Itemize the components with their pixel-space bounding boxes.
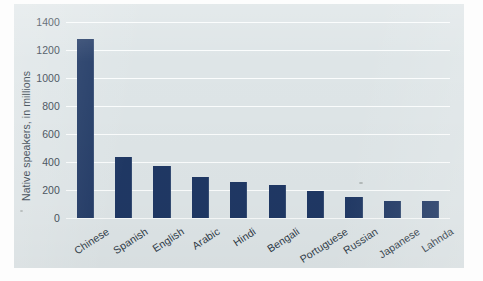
y-tick-label-400: 400 xyxy=(42,156,60,168)
bar-spanish[interactable] xyxy=(115,22,132,218)
bar-english[interactable] xyxy=(153,22,170,218)
x-tick-label-lahnda: Lahnda xyxy=(419,225,455,254)
y-axis-title: Native speakers, in millions xyxy=(20,71,32,201)
y-tick-label-0: 0 xyxy=(54,212,60,224)
x-tick-label-hindi: Hindi xyxy=(231,225,258,248)
x-tick-label-bengali: Bengali xyxy=(265,225,302,255)
bar-fill-english xyxy=(153,166,170,218)
y-tick-label-1200: 1200 xyxy=(36,44,60,56)
bar-chart-figure: Native speakers, in millions 02004006008… xyxy=(14,4,464,268)
bar-fill-bengali xyxy=(269,185,286,218)
bar-portuguese[interactable] xyxy=(307,22,324,218)
x-tick-label-japanese: Japanese xyxy=(377,225,422,260)
bar-fill-hindi xyxy=(230,182,247,218)
x-tick-label-english: English xyxy=(150,225,186,254)
bar-chinese[interactable] xyxy=(77,22,94,218)
screenshot-canvas: Native speakers, in millions 02004006008… xyxy=(0,0,483,281)
y-tick-label-800: 800 xyxy=(42,100,60,112)
y-tick-label-200: 200 xyxy=(42,184,60,196)
bar-bengali[interactable] xyxy=(269,22,286,218)
bar-fill-russian xyxy=(345,197,362,218)
bar-russian[interactable] xyxy=(345,22,362,218)
bar-lahnda[interactable] xyxy=(422,22,439,218)
bar-hindi[interactable] xyxy=(230,22,247,218)
plot-area: 0200400600800100012001400 ChineseSpanish… xyxy=(66,22,450,218)
x-tick-label-chinese: Chinese xyxy=(72,225,111,256)
bar-fill-arabic xyxy=(192,177,209,218)
bar-arabic[interactable] xyxy=(192,22,209,218)
y-tick-label-1000: 1000 xyxy=(36,72,60,84)
bar-fill-lahnda xyxy=(422,201,439,218)
bar-fill-spanish xyxy=(115,157,132,218)
gridline-0 xyxy=(66,218,450,219)
y-tick-label-1400: 1400 xyxy=(36,16,60,28)
bar-fill-japanese xyxy=(384,201,401,219)
bar-fill-chinese xyxy=(77,39,94,218)
y-tick-label-600: 600 xyxy=(42,128,60,140)
bar-series xyxy=(66,22,450,218)
scan-speck xyxy=(20,210,23,212)
bar-fill-portuguese xyxy=(307,191,324,218)
x-tick-label-spanish: Spanish xyxy=(111,225,150,256)
bar-japanese[interactable] xyxy=(384,22,401,218)
x-tick-label-arabic: Arabic xyxy=(190,225,222,252)
